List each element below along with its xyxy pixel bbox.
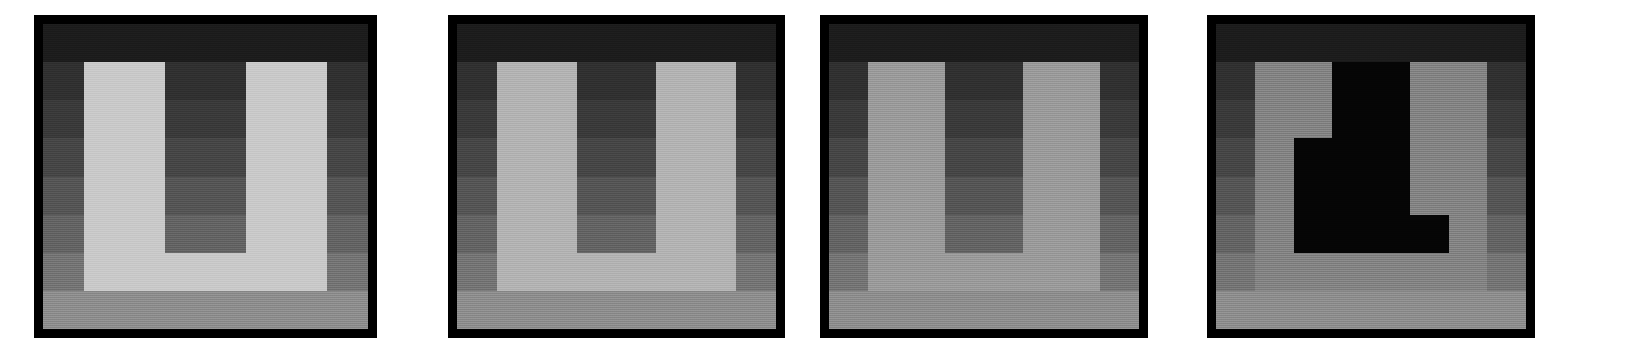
pixel-cell <box>287 291 328 329</box>
pixel-cell <box>577 177 617 215</box>
pixel-cell <box>1332 62 1371 100</box>
pixel-cell <box>206 62 247 100</box>
pixel-cell <box>1294 100 1333 138</box>
pixel-cell <box>206 215 247 253</box>
pixel-cell <box>1487 100 1526 138</box>
pixel-cell <box>617 215 657 253</box>
pixel-cell <box>124 291 165 329</box>
pixel-cell <box>1255 253 1294 291</box>
pixel-cell <box>246 138 287 176</box>
pixel-cell <box>43 100 84 138</box>
pixel-cell <box>656 291 696 329</box>
pixel-cell <box>246 24 287 62</box>
pixel-cell <box>829 138 868 176</box>
pixel-cell <box>287 100 328 138</box>
pixel-cell <box>868 62 907 100</box>
pixel-cell <box>43 253 84 291</box>
pixel-cell <box>1487 215 1526 253</box>
pixel-cell <box>945 24 984 62</box>
pixel-cell <box>577 291 617 329</box>
pixel-cell <box>327 253 368 291</box>
pixel-cell <box>287 24 328 62</box>
pixel-cell <box>1487 24 1526 62</box>
pixel-cell <box>206 138 247 176</box>
pixel-cell <box>165 100 206 138</box>
pixel-cell <box>206 177 247 215</box>
pixel-cell <box>246 177 287 215</box>
pixel-cell <box>246 253 287 291</box>
pixel-cell <box>1062 100 1101 138</box>
pixel-cell <box>1294 253 1333 291</box>
pixel-cell <box>537 291 577 329</box>
pixel-cell <box>1332 100 1371 138</box>
pixel-cell <box>497 253 537 291</box>
pixel-cell <box>1216 291 1255 329</box>
pixel-cell <box>124 24 165 62</box>
pixel-cell <box>696 253 736 291</box>
pixel-cell <box>1371 291 1410 329</box>
pixel-cell <box>1410 62 1449 100</box>
pixel-cell <box>984 177 1023 215</box>
pixel-cell <box>43 291 84 329</box>
pixel-cell <box>907 215 946 253</box>
pixel-cell <box>165 24 206 62</box>
pixel-cell <box>206 253 247 291</box>
pixel-cell <box>829 291 868 329</box>
pixel-cell <box>1294 215 1333 253</box>
pixel-cell <box>1216 177 1255 215</box>
pixel-cell <box>656 215 696 253</box>
pixel-cell <box>1449 62 1488 100</box>
pixel-cell <box>907 62 946 100</box>
pixel-cell <box>868 291 907 329</box>
pixel-cell <box>696 177 736 215</box>
inverted-contrast-u <box>1207 15 1535 338</box>
pixel-cell <box>1332 291 1371 329</box>
pixel-cell <box>1255 100 1294 138</box>
pixel-cell <box>1487 177 1526 215</box>
pixel-grid <box>1216 24 1526 329</box>
pixel-cell <box>1294 62 1333 100</box>
pixel-cell <box>1100 100 1139 138</box>
pixel-cell <box>457 24 497 62</box>
pixel-cell <box>246 100 287 138</box>
pixel-cell <box>617 24 657 62</box>
pixel-cell <box>1371 253 1410 291</box>
pixel-cell <box>617 253 657 291</box>
pixel-cell <box>1216 62 1255 100</box>
pixel-cell <box>656 253 696 291</box>
pixel-cell <box>84 24 125 62</box>
pixel-cell <box>736 291 776 329</box>
pixel-cell <box>124 215 165 253</box>
pixel-cell <box>457 177 497 215</box>
pixel-cell <box>1371 100 1410 138</box>
pixel-cell <box>945 62 984 100</box>
pixel-cell <box>736 215 776 253</box>
pixel-cell <box>907 177 946 215</box>
pixel-cell <box>1332 177 1371 215</box>
pixel-cell <box>1023 62 1062 100</box>
pixel-cell <box>696 24 736 62</box>
pixel-cell <box>736 100 776 138</box>
pixel-cell <box>656 177 696 215</box>
pixel-cell <box>124 138 165 176</box>
pixel-cell <box>829 24 868 62</box>
pixel-cell <box>984 215 1023 253</box>
pixel-cell <box>165 138 206 176</box>
pixel-cell <box>43 215 84 253</box>
pixel-cell <box>829 253 868 291</box>
pixel-cell <box>1023 215 1062 253</box>
pixel-cell <box>246 62 287 100</box>
pixel-cell <box>736 24 776 62</box>
pixel-cell <box>984 253 1023 291</box>
pixel-cell <box>124 62 165 100</box>
pixel-cell <box>1023 177 1062 215</box>
pixel-cell <box>868 215 907 253</box>
pixel-cell <box>1255 215 1294 253</box>
pixel-cell <box>1410 215 1449 253</box>
pixel-cell <box>1255 138 1294 176</box>
pixel-cell <box>1410 24 1449 62</box>
pixel-cell <box>1294 177 1333 215</box>
pixel-cell <box>327 100 368 138</box>
pixel-cell <box>1371 138 1410 176</box>
pixel-cell <box>1449 177 1488 215</box>
